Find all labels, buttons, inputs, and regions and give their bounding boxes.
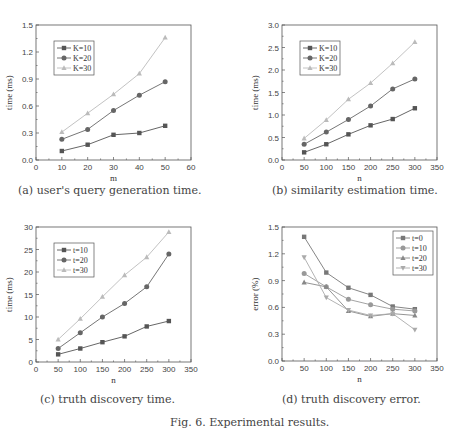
- x-tick-label: 0: [34, 163, 39, 172]
- x-tick-label: 0: [280, 163, 285, 172]
- data-point-marker: [302, 235, 306, 239]
- data-point-marker: [59, 137, 64, 142]
- chart-d: 0501001502002503003500.00.30.60.91.21.5n…: [230, 202, 460, 402]
- x-tick-label: 0: [280, 364, 285, 373]
- x-tick-label: 200: [118, 365, 132, 374]
- data-point-marker: [346, 286, 350, 290]
- x-tick-label: 200: [364, 364, 378, 373]
- legend-label: K=10: [319, 44, 337, 53]
- data-point-marker: [85, 110, 90, 115]
- x-axis-label: n: [357, 374, 362, 384]
- y-axis-label: time (ms): [4, 277, 14, 312]
- data-point-marker: [137, 93, 142, 98]
- data-point-marker: [59, 129, 64, 134]
- legend-label: K=30: [73, 64, 91, 73]
- data-point-marker: [368, 293, 372, 297]
- y-tick-label: 0.0: [268, 357, 280, 366]
- data-point-marker: [145, 324, 149, 328]
- chart-a: 01020304050600.00.30.60.91.21.5mtime (ms…: [0, 0, 230, 200]
- data-point-marker: [302, 271, 307, 276]
- series-K-10: [60, 124, 168, 154]
- x-tick-label: 50: [300, 163, 309, 172]
- data-point-marker: [163, 124, 167, 128]
- data-point-marker: [144, 284, 149, 289]
- chart-c: 050100150200250300350051015202530ntime (…: [0, 202, 230, 402]
- data-point-marker: [324, 130, 329, 135]
- data-point-marker: [302, 150, 306, 154]
- x-axis-label: n: [111, 375, 116, 385]
- legend-label: K=20: [319, 54, 337, 63]
- legend-label: t=0: [412, 234, 423, 243]
- legend-label: K=20: [73, 54, 91, 63]
- caption-a: (a) user's query generation time.: [18, 184, 201, 197]
- chart-b: 0501001502002503003500.00.51.01.52.02.53…: [230, 0, 460, 200]
- data-point-marker: [122, 272, 127, 277]
- y-tick-label: 2.0: [268, 66, 280, 75]
- legend-marker: [308, 46, 312, 50]
- chart-b-plot: 0501001502002503003500.00.51.01.52.02.53…: [230, 0, 460, 200]
- data-point-marker: [85, 127, 90, 132]
- x-tick-label: 20: [83, 163, 92, 172]
- legend-marker: [62, 258, 67, 263]
- y-axis-label: error (%): [250, 277, 260, 310]
- x-axis-label: n: [357, 173, 362, 183]
- x-tick-label: 50: [300, 364, 309, 373]
- caption-d: (d) truth discovery error.: [282, 393, 421, 406]
- data-point-marker: [85, 143, 89, 147]
- legend-marker: [308, 56, 313, 61]
- data-point-marker: [56, 346, 61, 351]
- legend-label: t=30: [412, 264, 427, 273]
- figure-caption: Fig. 6. Experimental results.: [170, 416, 329, 429]
- series-K-20: [302, 77, 418, 147]
- x-tick-label: 30: [109, 163, 118, 172]
- x-tick-label: 250: [386, 364, 400, 373]
- x-tick-label: 200: [364, 163, 378, 172]
- y-tick-label: 0.3: [22, 129, 34, 138]
- y-tick-label: 1.2: [268, 250, 280, 259]
- x-tick-label: 100: [320, 364, 334, 373]
- data-point-marker: [324, 142, 328, 146]
- series-K-20: [59, 79, 167, 142]
- data-point-marker: [324, 270, 328, 274]
- data-point-marker: [324, 296, 329, 301]
- data-point-marker: [78, 330, 83, 335]
- y-tick-label: 30: [24, 223, 33, 232]
- data-point-marker: [346, 117, 351, 122]
- data-point-marker: [412, 328, 417, 333]
- legend-marker: [62, 248, 66, 252]
- data-point-marker: [412, 39, 417, 44]
- data-point-marker: [111, 108, 116, 113]
- x-tick-label: 0: [34, 365, 39, 374]
- series-K-10: [302, 106, 417, 154]
- y-tick-label: 1.5: [268, 89, 280, 98]
- data-point-marker: [302, 280, 307, 285]
- y-tick-label: 0: [29, 358, 34, 367]
- y-tick-label: 1.2: [22, 48, 34, 57]
- x-tick-label: 300: [408, 163, 422, 172]
- legend: t=0t=10t=20t=30: [393, 231, 433, 275]
- y-tick-label: 1.5: [22, 21, 34, 30]
- legend-label: K=10: [73, 44, 91, 53]
- data-point-marker: [368, 104, 373, 109]
- data-point-marker: [346, 297, 351, 302]
- y-tick-label: 0.6: [268, 303, 280, 312]
- y-tick-label: 3.0: [268, 21, 280, 30]
- y-tick-label: 5: [29, 336, 34, 345]
- legend-label: t=10: [73, 246, 88, 255]
- x-tick-label: 150: [342, 364, 356, 373]
- data-point-marker: [391, 117, 395, 121]
- data-point-marker: [56, 352, 60, 356]
- data-point-marker: [412, 77, 417, 82]
- data-point-marker: [166, 229, 171, 234]
- x-tick-label: 150: [96, 365, 110, 374]
- x-tick-label: 60: [187, 163, 196, 172]
- data-point-marker: [122, 301, 127, 306]
- data-point-marker: [137, 131, 141, 135]
- x-tick-label: 300: [162, 365, 176, 374]
- y-tick-label: 0.0: [22, 156, 34, 165]
- y-tick-label: 10: [24, 313, 33, 322]
- data-point-marker: [100, 340, 104, 344]
- data-point-marker: [78, 346, 82, 350]
- data-point-marker: [111, 133, 115, 137]
- x-tick-label: 250: [386, 163, 400, 172]
